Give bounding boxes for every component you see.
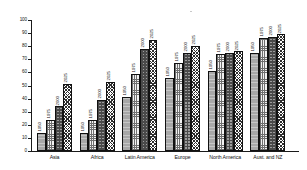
bar-slot: 2025 xyxy=(149,20,158,151)
bar-slot: 1950 xyxy=(250,20,259,151)
plot-area: 0102030405060708090100 1950197520002025A… xyxy=(31,20,299,152)
y-axis-line xyxy=(31,20,32,152)
bar-slot: 1975 xyxy=(216,20,225,151)
bar-series-label: 2025 xyxy=(277,24,281,33)
bar-slot: 1950 xyxy=(80,20,89,151)
bar[interactable] xyxy=(268,37,277,151)
bar[interactable] xyxy=(131,74,140,151)
x-axis-category-label: Africa xyxy=(80,155,115,160)
bar[interactable] xyxy=(183,53,192,151)
bar[interactable] xyxy=(55,106,64,151)
bar-group: 1950197520002025Latin America xyxy=(122,20,157,151)
bar[interactable] xyxy=(277,34,286,151)
bar-slot: 2000 xyxy=(140,20,149,151)
y-axis-tick xyxy=(28,46,31,47)
y-axis-tick-label: 80 xyxy=(22,44,27,49)
bar[interactable] xyxy=(106,82,115,151)
bar[interactable] xyxy=(234,51,243,151)
y-axis-tick-label: 90 xyxy=(22,31,27,36)
bar-slot: 2000 xyxy=(225,20,234,151)
bar[interactable] xyxy=(80,133,89,151)
bar-series-label: 2025 xyxy=(149,29,153,38)
bar-slot: 2025 xyxy=(277,20,286,151)
bar-group-bars: 1950197520002025 xyxy=(37,20,72,151)
bar-group-bars: 1950197520002025 xyxy=(208,20,243,151)
bar-series-label: 2025 xyxy=(192,35,196,44)
bar[interactable] xyxy=(46,120,55,151)
y-axis-tick-label: 20 xyxy=(22,123,27,128)
bar[interactable] xyxy=(208,71,217,151)
bar-series-label: 2000 xyxy=(140,38,144,47)
y-axis-tick-label: 40 xyxy=(22,96,27,101)
y-axis-tick xyxy=(28,138,31,139)
y-axis-tick xyxy=(28,72,31,73)
y-axis-tick xyxy=(28,125,31,126)
bar-slot: 2025 xyxy=(106,20,115,151)
bar[interactable] xyxy=(140,49,149,151)
bar[interactable] xyxy=(63,84,72,151)
bar-series-label: 2000 xyxy=(226,42,230,51)
bar[interactable] xyxy=(259,38,268,151)
bar-series-label: 2000 xyxy=(55,96,59,105)
x-axis-category-label: North America xyxy=(208,155,243,160)
bar-slot: 1950 xyxy=(122,20,131,151)
y-axis-tick-label: 100 xyxy=(20,18,27,23)
bar-series-label: 2000 xyxy=(98,89,102,98)
bar[interactable] xyxy=(165,78,174,151)
y-axis-tick-label: 10 xyxy=(22,136,27,141)
bar[interactable] xyxy=(216,54,225,151)
bar-series-label: 2000 xyxy=(268,26,272,35)
bar-series-label: 1950 xyxy=(251,42,255,51)
x-axis-line xyxy=(31,151,299,152)
bar-group-bars: 1950197520002025 xyxy=(165,20,200,151)
bar-group-bars: 1950197520002025 xyxy=(250,20,285,151)
bar-slot: 2000 xyxy=(55,20,64,151)
y-axis-tick-label: 50 xyxy=(22,83,27,88)
bar-group: 1950197520002025Europe xyxy=(165,20,200,151)
x-axis-category-label: Latin America xyxy=(122,155,157,160)
x-axis-category-label: Aust. and NZ xyxy=(250,155,285,160)
bar[interactable] xyxy=(250,53,259,151)
y-axis-tick xyxy=(28,99,31,100)
bar-slot: 2025 xyxy=(191,20,200,151)
bar-slot: 2000 xyxy=(97,20,106,151)
y-axis-tick-label: 0 xyxy=(25,149,27,154)
y-axis-tick xyxy=(28,33,31,34)
bar-series-label: 1950 xyxy=(38,122,42,131)
x-axis-category-label: Asia xyxy=(37,155,72,160)
y-axis-tick xyxy=(28,59,31,60)
bar[interactable] xyxy=(97,100,106,151)
bar[interactable] xyxy=(37,133,46,151)
bar-series-label: 2000 xyxy=(183,42,187,51)
bar-group: 1950197520002025Asia xyxy=(37,20,72,151)
bar[interactable] xyxy=(191,46,200,151)
bar-series-label: 1975 xyxy=(217,43,221,52)
bar-series-label: 1975 xyxy=(46,109,50,118)
bar[interactable] xyxy=(88,120,97,151)
y-axis-tick xyxy=(28,20,31,21)
bar-slot: 1975 xyxy=(259,20,268,151)
bar-group: 1950197520002025North America xyxy=(208,20,243,151)
bar-series-label: 1975 xyxy=(260,27,264,36)
bar-group-bars: 1950197520002025 xyxy=(122,20,157,151)
x-axis-category-label: Europe xyxy=(165,155,200,160)
bar[interactable] xyxy=(225,53,234,151)
bar-series-label: 1975 xyxy=(89,109,93,118)
y-axis-tick-label: 60 xyxy=(22,70,27,75)
scan-speck xyxy=(190,11,192,12)
bar-slot: 2000 xyxy=(268,20,277,151)
bar-slot: 1975 xyxy=(88,20,97,151)
bar[interactable] xyxy=(174,63,183,151)
bar-slot: 1975 xyxy=(174,20,183,151)
bar[interactable] xyxy=(122,97,131,151)
bar-group: 1950197520002025Aust. and NZ xyxy=(250,20,285,151)
bar-series-label: 1950 xyxy=(208,60,212,69)
bar-series-label: 1975 xyxy=(174,52,178,61)
bar-slot: 1950 xyxy=(208,20,217,151)
bar-slot: 1950 xyxy=(37,20,46,151)
bar-group-bars: 1950197520002025 xyxy=(80,20,115,151)
bar-slot: 1975 xyxy=(46,20,55,151)
bar-chart: 0102030405060708090100 1950197520002025A… xyxy=(0,0,307,170)
bar-series-label: 1950 xyxy=(123,86,127,95)
bar[interactable] xyxy=(149,40,158,151)
